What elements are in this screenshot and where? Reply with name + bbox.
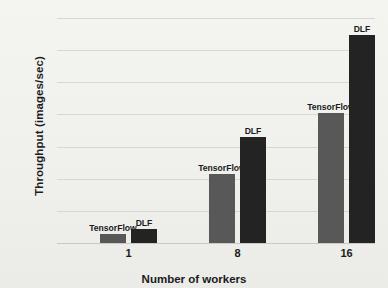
bar-group: TensorFlowDLF xyxy=(100,18,157,243)
bar-value-label: DLF xyxy=(136,218,153,228)
bar-group: TensorFlowDLF xyxy=(209,18,266,243)
bar-value-label: DLF xyxy=(354,24,371,34)
bar-value-label: TensorFlow xyxy=(89,223,137,233)
bar-tensorflow-1 xyxy=(100,234,126,243)
bar-dlf-16 xyxy=(349,35,375,243)
bar-value-label: TensorFlow xyxy=(307,102,355,112)
x-axis-title: Number of workers xyxy=(0,273,388,285)
bar-tensorflow-16 xyxy=(318,113,344,243)
x-axis-tick-label: 16 xyxy=(340,247,352,259)
bar-dlf-8 xyxy=(240,137,266,243)
bar-chart: Throughput (images/sec) 0500100015002000… xyxy=(0,0,388,288)
x-axis-tick-label: 8 xyxy=(234,247,240,259)
bar-tensorflow-8 xyxy=(209,174,235,243)
bar-dlf-1 xyxy=(131,229,157,243)
bar-value-label: DLF xyxy=(245,126,262,136)
bar-value-label: TensorFlow xyxy=(198,163,246,173)
y-axis-title: Throughput (images/sec) xyxy=(33,26,45,226)
gridline xyxy=(57,243,375,244)
plot-area: 0500100015002000250030003500 TensorFlowD… xyxy=(57,18,375,243)
bar-group: TensorFlowDLF xyxy=(318,18,375,243)
x-axis-tick-label: 1 xyxy=(125,247,131,259)
